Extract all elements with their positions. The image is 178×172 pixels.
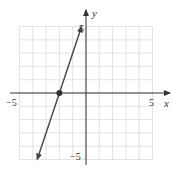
y-max-label: 5 [79,23,84,34]
x-intercept-point [56,90,62,96]
axes [10,10,170,165]
y-axis-label: y [91,7,97,19]
axis-labels: −5 5 x 5 −5 y [6,7,169,162]
x-min-label: −5 [6,97,17,108]
x-axis-label: x [163,97,169,109]
x-max-label: 5 [149,97,154,108]
y-min-label: −5 [70,151,81,162]
coordinate-plane: −5 5 x 5 −5 y [0,0,178,172]
